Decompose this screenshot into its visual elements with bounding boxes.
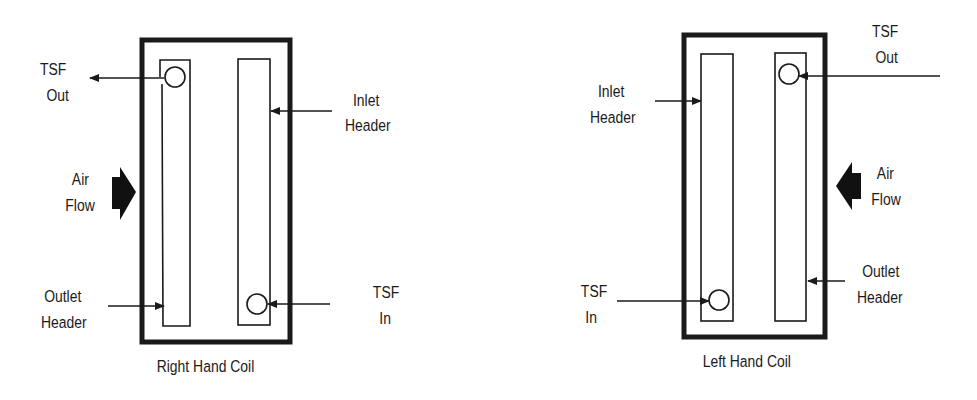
left-hand-coil: Inlet Header TSF Out Air Flow Outlet Hea… — [581, 22, 940, 371]
air-flow-arrow-icon — [112, 167, 136, 220]
tsf-out-port — [165, 67, 185, 87]
label-tsf-out: TSF — [872, 22, 898, 41]
label-air-flow-2: Flow — [65, 196, 95, 215]
tsf-out-port — [779, 64, 799, 84]
caption-right-hand-coil: Right Hand Coil — [157, 357, 255, 376]
label-air-flow: Air — [877, 164, 894, 183]
label-outlet-header-2: Header — [857, 288, 903, 307]
label-air-flow-2: Flow — [871, 190, 901, 209]
tsf-in-port — [709, 290, 729, 310]
outlet-header — [160, 60, 190, 326]
label-inlet-header-2: Header — [590, 108, 636, 127]
label-air-flow: Air — [72, 170, 89, 189]
inlet-header — [238, 59, 270, 325]
coil-diagrams: TSF Out Inlet Header Air Flow Outlet Hea… — [0, 0, 977, 400]
label-outlet-header: Outlet — [44, 287, 82, 306]
inlet-header — [701, 54, 733, 321]
coil-casing — [684, 35, 825, 337]
air-flow-arrow-icon — [836, 162, 861, 210]
label-inlet-header: Inlet — [598, 82, 625, 101]
label-tsf-in: TSF — [373, 283, 399, 302]
label-inlet-header: Inlet — [353, 91, 380, 110]
tsf-in-port — [247, 294, 267, 314]
label-tsf-in-2: In — [585, 308, 597, 327]
outlet-header — [775, 53, 806, 321]
label-tsf-in-2: In — [379, 309, 391, 328]
label-outlet-header: Outlet — [862, 262, 900, 281]
label-tsf-in: TSF — [581, 282, 607, 301]
label-outlet-header-2: Header — [41, 313, 87, 332]
label-inlet-header-2: Header — [345, 116, 391, 135]
label-tsf-out-2: Out — [876, 48, 899, 67]
coil-casing — [142, 40, 290, 342]
label-tsf-out-2: Out — [47, 86, 70, 105]
right-hand-coil: TSF Out Inlet Header Air Flow Outlet Hea… — [40, 40, 399, 375]
caption-left-hand-coil: Left Hand Coil — [703, 352, 791, 371]
label-tsf-out: TSF — [40, 60, 66, 79]
